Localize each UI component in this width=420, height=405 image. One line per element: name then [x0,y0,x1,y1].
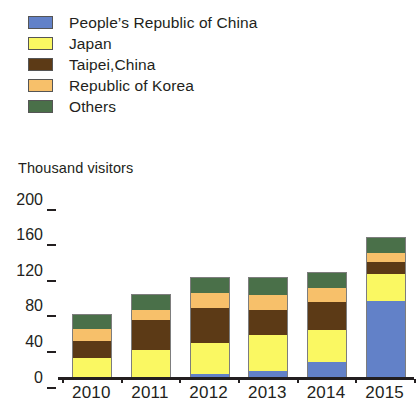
bar-2011[interactable] [131,294,171,378]
bar-segment-china[interactable] [307,362,347,378]
bar-2012[interactable] [190,277,230,378]
bar-segment-japan[interactable] [307,330,347,362]
bar-segment-others[interactable] [248,277,288,296]
y-axis-tick: 160 [0,227,58,243]
bar-segment-taipei[interactable] [307,302,347,330]
bar-segment-korea[interactable] [366,253,406,263]
bar-segment-others[interactable] [366,237,406,253]
x-axis-label-2015: 2015 [355,383,414,402]
bar-segment-korea[interactable] [307,288,347,302]
y-axis-tick-label: 80 [25,298,43,314]
bar-segment-taipei[interactable] [72,341,112,359]
y-axis-tick-label: 120 [16,263,43,279]
y-axis-tick: 120 [0,263,58,279]
bar-segment-korea[interactable] [248,295,288,310]
bar-segment-japan[interactable] [190,343,230,374]
bar-segment-others[interactable] [307,272,347,288]
y-axis-tick: 40 [0,334,58,350]
y-axis-tick: 200 [0,192,58,208]
y-axis-tick-label: 40 [25,334,43,350]
y-axis-tick-label: 200 [16,192,43,208]
x-axis-label-2014: 2014 [297,383,356,402]
bar-2015[interactable] [366,237,406,379]
y-axis-tick: 0 [0,370,58,386]
bar-2013[interactable] [248,277,288,378]
bar-2014[interactable] [307,272,347,378]
bar-segment-taipei[interactable] [131,320,171,349]
bar-segment-korea[interactable] [131,310,171,320]
stacked-bar-chart: Thousand visitors 04080120160200 2010201… [0,0,420,405]
y-axis-title: Thousand visitors [18,160,133,176]
bar-segment-japan[interactable] [248,335,288,371]
bar-segment-korea[interactable] [72,329,112,341]
bar-segment-japan[interactable] [366,274,406,302]
bar-segment-korea[interactable] [190,293,230,307]
bar-segment-china[interactable] [366,301,406,378]
bar-segment-japan[interactable] [131,350,171,378]
y-axis-tick-label: 160 [16,227,43,243]
x-axis-label-2012: 2012 [179,383,238,402]
bar-segment-others[interactable] [190,277,230,294]
x-axis-label-2010: 2010 [62,383,121,402]
y-axis-tick: 80 [0,298,58,314]
bar-segment-taipei[interactable] [190,308,230,344]
bar-segment-others[interactable] [131,294,171,310]
bar-segment-taipei[interactable] [248,310,288,335]
bar-segment-others[interactable] [72,314,112,329]
y-axis-tick-label: 0 [34,370,43,386]
x-axis-label-2013: 2013 [238,383,297,402]
bar-2010[interactable] [72,314,112,378]
x-axis-tickmark [414,379,416,383]
x-axis-line [58,377,414,380]
bar-segment-taipei[interactable] [366,262,406,274]
bar-segment-japan[interactable] [72,358,112,378]
plot-area [62,195,414,378]
x-axis-label-2011: 2011 [121,383,180,402]
